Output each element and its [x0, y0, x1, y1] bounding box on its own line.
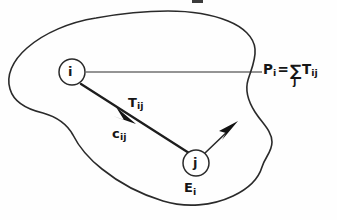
formula-pi: Pi=∑jTij: [263, 63, 318, 79]
formula-term-symbol: T: [302, 61, 311, 77]
label-cij: cij: [112, 127, 126, 142]
figure-container: i j Pi=∑jTij Tij cij Ei: [0, 0, 337, 220]
label-cij-subscript: ij: [120, 131, 127, 142]
diagram-canvas: [0, 0, 337, 220]
label-tij: Tij: [128, 96, 144, 111]
formula-equals: =: [276, 61, 290, 77]
summation-group: ∑j: [290, 63, 302, 79]
label-cij-symbol: c: [112, 126, 120, 141]
edge-j-external: [205, 132, 227, 153]
node-i-label: i: [68, 65, 72, 78]
label-tij-subscript: ij: [137, 100, 144, 111]
label-ei: Ei: [184, 181, 196, 197]
formula-term-subscript: ij: [311, 67, 318, 78]
formula-pi-symbol: P: [263, 61, 273, 77]
label-tij-symbol: T: [128, 95, 137, 110]
label-ei-symbol: E: [184, 180, 193, 195]
scan-artifact-mark: [192, 0, 203, 3]
node-j-label: j: [193, 156, 197, 169]
sigma-index: j: [293, 77, 297, 87]
label-ei-subscript: i: [193, 186, 196, 197]
